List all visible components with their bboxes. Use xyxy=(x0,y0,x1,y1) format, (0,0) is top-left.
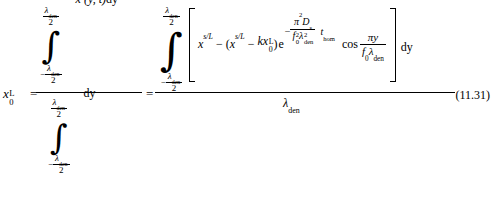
integral-3: λden 2 ∫ − λden 2 xyxy=(160,6,183,94)
integral-1-sign: ∫ xyxy=(41,28,60,64)
integral-2: λden 2 ∫ − λden 2 xyxy=(48,98,70,176)
exponent-group: − π2Ds f20λ2den thom xyxy=(285,17,335,47)
cos-numerator: πy xyxy=(366,32,380,44)
bracket-open xyxy=(189,8,195,82)
exponent-denominator: f20λ2den xyxy=(290,31,315,47)
integrand-1-base: x xyxy=(76,0,81,6)
equation-figure: xL0 = λden 2 ∫ − λden 2 xyxy=(0,0,494,203)
lhs-subsup: L0 xyxy=(9,89,14,106)
second-fraction-denominator: λden xyxy=(283,96,300,111)
integral-1: λden 2 ∫ − λden 2 xyxy=(40,6,62,86)
lhs-expression: xL0 xyxy=(3,86,15,108)
integrand-1-args: (y, t) xyxy=(84,0,106,6)
equals-sign-2: = xyxy=(146,86,153,102)
bracket-contents: xs/L − ( xs/L − kxL0 ) e − π2Ds f20λ2den… xyxy=(198,30,386,60)
term-3: kxL0 xyxy=(258,34,274,55)
integrand-1-differential: dy xyxy=(106,0,118,6)
bracket-close xyxy=(390,8,396,82)
lower-limit-denominator: 2 xyxy=(49,76,58,85)
integral-3-lower-limit: − λden 2 xyxy=(161,72,183,94)
upper-limit-numerator: λden xyxy=(43,6,59,15)
paren-close: ) xyxy=(274,37,278,52)
integral-2-lower-limit: − λden 2 xyxy=(48,154,70,176)
equals-sign-1: = xyxy=(30,86,37,102)
second-fraction-bar xyxy=(155,92,455,93)
equation-number: (11.31) xyxy=(455,88,490,103)
denominator-lambda-subscript: den xyxy=(288,106,299,115)
term-1: xs/L xyxy=(198,37,213,52)
lhs-subscript: 0 xyxy=(9,98,14,107)
operator-minus-1: − xyxy=(216,37,223,52)
integrand-1: xs(y, t)dy xyxy=(76,0,118,7)
lhs-base: x xyxy=(3,86,9,101)
integral-2-sign: ∫ xyxy=(50,120,68,154)
first-fraction-denominator: λden 2 ∫ − λden 2 dy xyxy=(48,98,96,176)
lower-limit-numerator: λden xyxy=(45,64,61,73)
integral-1-lower-limit: − λden 2 xyxy=(40,64,62,86)
integrand-2-differential: dy xyxy=(84,86,96,101)
cos-function-name: cos xyxy=(342,37,358,52)
second-fraction-numerator: λden 2 ∫ − λden 2 xyxy=(160,4,413,94)
first-fraction-numerator: λden 2 ∫ − λden 2 xs(y, t)dy xyxy=(40,6,118,86)
term-2: xs/L xyxy=(230,37,245,52)
integral-3-sign: ∫ xyxy=(160,28,183,72)
cosine-term: cos πy f0λden xyxy=(342,32,386,58)
operator-minus-2: − xyxy=(248,37,255,52)
exp-base: e xyxy=(279,37,284,52)
exponent-numerator: π2Ds xyxy=(292,17,314,28)
cos-denominator: f0λden xyxy=(360,46,386,58)
outer-differential: dy xyxy=(401,40,413,55)
cos-argument-fraction: πy f0λden xyxy=(360,32,386,58)
exponent-trailing-t: thom xyxy=(320,26,335,37)
exponent-fraction: π2Ds f20λ2den xyxy=(290,17,315,47)
